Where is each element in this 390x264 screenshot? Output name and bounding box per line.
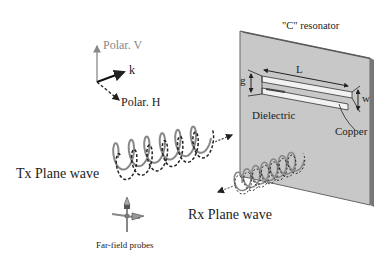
dimension-g-label: g [240, 74, 246, 86]
dimension-w-label: w [362, 92, 370, 104]
tx-wave [113, 127, 232, 180]
dielectric-label: Dielectric [252, 109, 295, 121]
tx-direction-arrow [212, 135, 232, 143]
resonator-title: "C" resonator [282, 20, 339, 31]
polarization-axes [97, 46, 124, 100]
polar-h-label: Polar. H [121, 95, 160, 110]
rx-plane-wave-label: Rx Plane wave [188, 207, 272, 223]
tx-plane-wave-label: Tx Plane wave [16, 166, 99, 182]
tx-wave-solid [113, 127, 211, 170]
far-field-probes-label: Far-field probes [96, 240, 154, 250]
diagram-canvas [0, 0, 390, 264]
k-label: k [129, 63, 135, 78]
dimension-l-label: L [296, 63, 303, 75]
far-field-probe-icon [112, 197, 144, 232]
polar-v-label: Polar. V [103, 38, 142, 53]
copper-label: Copper [335, 125, 367, 137]
rx-direction-arrow [218, 185, 236, 192]
